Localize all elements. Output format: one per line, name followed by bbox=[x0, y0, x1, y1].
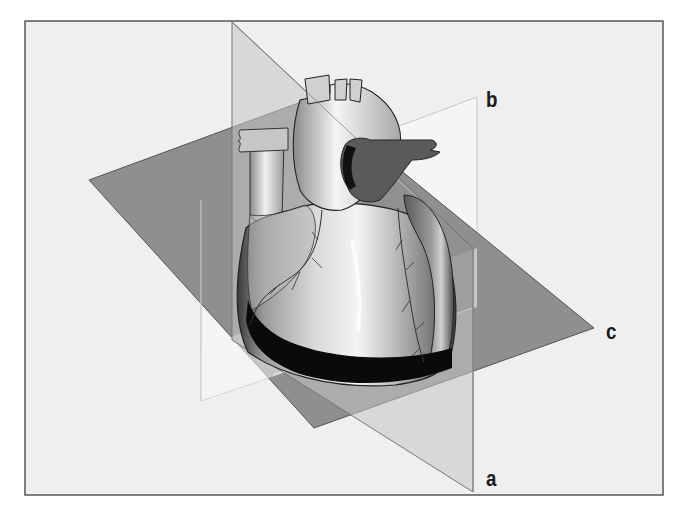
superior-vena-cava bbox=[250, 140, 284, 222]
plane-label-a: a bbox=[486, 468, 496, 490]
aortic-branch bbox=[335, 79, 347, 100]
heart-planes-diagram: b c a bbox=[0, 0, 682, 509]
diagram-canvas bbox=[0, 0, 682, 509]
aortic-branch bbox=[350, 79, 362, 102]
plane-label-b: b bbox=[486, 89, 497, 111]
aortic-branch bbox=[305, 75, 330, 104]
plane-label-c: c bbox=[606, 321, 616, 343]
